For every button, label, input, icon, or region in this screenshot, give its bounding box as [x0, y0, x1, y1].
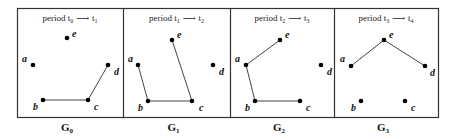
node-b-label: b — [351, 102, 356, 113]
node-c-dot — [86, 98, 91, 103]
node-b-label: b — [33, 101, 38, 112]
panel-g1: period t1⟶t2abcde — [124, 8, 226, 118]
node-d-dot — [106, 63, 111, 68]
panel-label: G2 — [273, 121, 286, 135]
node-c-label: c — [199, 102, 204, 113]
node-c-dot — [190, 99, 195, 104]
panel-g2: period t2⟶t3abcde — [231, 8, 334, 118]
panel-label: G1 — [167, 121, 180, 135]
node-b-label: b — [138, 102, 143, 113]
panel-g0: period t0⟶t1abcde — [22, 13, 120, 112]
panel-label: G0 — [61, 121, 74, 135]
title-from-subscript: 0 — [70, 18, 73, 24]
node-d-label: d — [114, 66, 120, 77]
node-e-label: e — [389, 29, 394, 40]
panel-title: period t3⟶t4 — [358, 13, 413, 24]
node-a-dot — [349, 64, 354, 69]
edge-a-b — [138, 65, 148, 101]
title-to-subscript: 3 — [307, 18, 310, 24]
arrow-icon: ⟶ — [183, 13, 196, 23]
node-e-dot — [170, 38, 175, 43]
panel-label-subscript: 1 — [176, 127, 180, 135]
arrow-icon: ⟶ — [288, 13, 301, 23]
title-from-subscript: 1 — [177, 18, 180, 24]
node-a-dot — [31, 63, 36, 68]
node-b-dot — [146, 99, 151, 104]
title-to-subscript: 1 — [95, 18, 98, 24]
node-d-label: d — [430, 67, 436, 78]
node-c-label: c — [306, 102, 311, 113]
node-c-dot — [403, 99, 408, 104]
panel-title: period t1⟶t2 — [149, 13, 204, 24]
edge-a-b — [246, 65, 255, 101]
node-e-dot — [382, 38, 387, 43]
network-evolution-diagram: period t0⟶t1abcdeG0period t1⟶t2abcdeG1pe… — [0, 0, 454, 139]
title-prefix: period t — [254, 13, 282, 23]
title-prefix: period t — [149, 13, 177, 23]
node-a-label: a — [340, 53, 345, 64]
node-c-label: c — [411, 102, 416, 113]
panel-title: period t2⟶t3 — [254, 13, 309, 24]
edge-c-e — [172, 40, 192, 101]
node-e-label: e — [72, 28, 77, 39]
node-a-dot — [136, 63, 141, 68]
title-to-subscript: 4 — [411, 18, 414, 24]
node-a-label: a — [128, 53, 133, 64]
title-from-subscript: 3 — [386, 18, 389, 24]
panels: period t0⟶t1abcdeG0period t1⟶t2abcdeG1pe… — [18, 8, 439, 135]
node-d-dot — [423, 64, 428, 69]
edge-e-d — [384, 40, 425, 66]
arrow-icon: ⟶ — [392, 13, 405, 23]
node-b-dot — [41, 98, 46, 103]
arrow-icon: ⟶ — [76, 13, 89, 23]
panel-label-subscript: 3 — [386, 127, 390, 135]
node-b-dot — [253, 99, 258, 104]
edge-c-d — [88, 65, 108, 100]
title-prefix: period t — [42, 13, 70, 23]
node-e-label: e — [177, 29, 182, 40]
edge-a-e — [351, 40, 384, 66]
panel-g3: period t3⟶t4abcde — [335, 8, 437, 118]
node-c-dot — [298, 99, 303, 104]
node-d-dot — [319, 63, 324, 68]
node-d-label: d — [219, 66, 225, 77]
title-prefix: period t — [358, 13, 386, 23]
figure-frame — [18, 9, 439, 118]
edge-e-a — [246, 40, 280, 65]
panel-label: G3 — [377, 121, 390, 135]
node-a-label: a — [22, 53, 27, 64]
node-a-dot — [244, 63, 249, 68]
title-to-subscript: 2 — [201, 18, 204, 24]
node-d-dot — [211, 63, 216, 68]
panel-label-subscript: 2 — [282, 127, 286, 135]
node-e-dot — [278, 38, 283, 43]
node-b-label: b — [245, 102, 250, 113]
node-d-label: d — [327, 66, 333, 77]
node-b-dot — [359, 99, 364, 104]
node-e-dot — [65, 36, 70, 41]
node-e-label: e — [285, 29, 290, 40]
node-c-label: c — [94, 101, 99, 112]
panel-title: period t0⟶t1 — [42, 13, 97, 24]
panel-label-subscript: 0 — [70, 127, 74, 135]
title-from-subscript: 2 — [282, 18, 285, 24]
node-a-label: a — [235, 53, 240, 64]
